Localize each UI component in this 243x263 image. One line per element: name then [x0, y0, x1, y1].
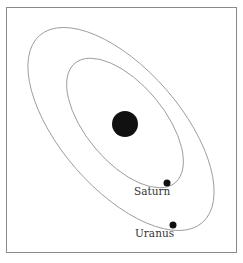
orbit-diagram [0, 0, 243, 263]
saturn-label: Saturn [134, 186, 170, 197]
sun-body [112, 111, 138, 137]
uranus-label: Uranus [135, 228, 174, 239]
